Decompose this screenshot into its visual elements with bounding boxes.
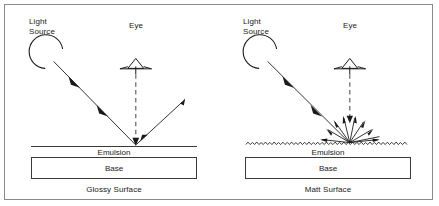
base-label: Base	[31, 164, 197, 173]
panel-caption-matt: Matt Surface	[245, 185, 411, 195]
film-layer-stack-glossy: Emulsion Base	[31, 146, 197, 179]
scatter-ray-burst	[322, 118, 379, 143]
rough-surface-texture	[246, 142, 407, 145]
emulsion-label: Emulsion	[31, 148, 197, 157]
panel-caption-glossy: Glossy Surface	[31, 185, 197, 195]
panel-matt-surface: Light Source Eye	[221, 5, 435, 199]
emulsion-label: Emulsion	[245, 148, 411, 157]
eye-sight-ray	[347, 74, 353, 123]
film-layer-stack-matt: Emulsion Base	[245, 146, 411, 179]
reflected-ray	[136, 99, 185, 145]
panel-glossy-surface: Light Source Eye	[7, 5, 221, 199]
eye-icon	[334, 58, 366, 74]
light-source-icon	[29, 35, 62, 69]
eye-sight-ray	[132, 74, 139, 146]
base-label: Base	[245, 164, 411, 173]
figure-frame: Light Source Eye	[4, 4, 433, 200]
incident-ray	[268, 61, 350, 142]
eye-icon	[120, 58, 152, 74]
light-source-icon	[243, 35, 276, 69]
incident-ray	[54, 61, 136, 144]
